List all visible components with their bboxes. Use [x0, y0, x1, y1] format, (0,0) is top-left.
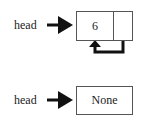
- head-label-2: head: [14, 93, 37, 107]
- node-value-text: 6: [76, 19, 114, 33]
- node-next-cell: [113, 11, 133, 41]
- none-text: None: [76, 93, 133, 107]
- head-label-1: head: [14, 18, 37, 32]
